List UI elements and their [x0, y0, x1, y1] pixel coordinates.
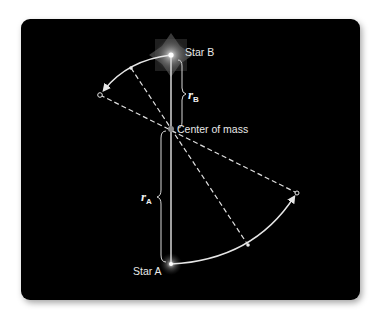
- star-b-label: Star B: [185, 47, 214, 58]
- center-of-mass-point: [168, 126, 174, 132]
- r-a-subscript: A: [146, 197, 152, 206]
- star-b-intermediate-dot: [129, 66, 133, 70]
- star-b: [168, 52, 173, 57]
- star-a-final-position: [295, 191, 299, 195]
- star-a: [169, 262, 173, 266]
- star-b-final-position: [98, 93, 103, 98]
- r-a-label: rA: [141, 190, 152, 206]
- star-a-intermediate-dot: [246, 243, 250, 247]
- star-a-label: Star A: [133, 266, 162, 277]
- r-b-subscript: B: [193, 95, 199, 104]
- dashed-line-final: [100, 95, 297, 193]
- r-b-label: rB: [188, 88, 199, 104]
- center-of-mass-label: Center of mass: [177, 124, 248, 135]
- r-a-brace: [157, 131, 166, 262]
- star-a-orbit-arc: [171, 197, 294, 264]
